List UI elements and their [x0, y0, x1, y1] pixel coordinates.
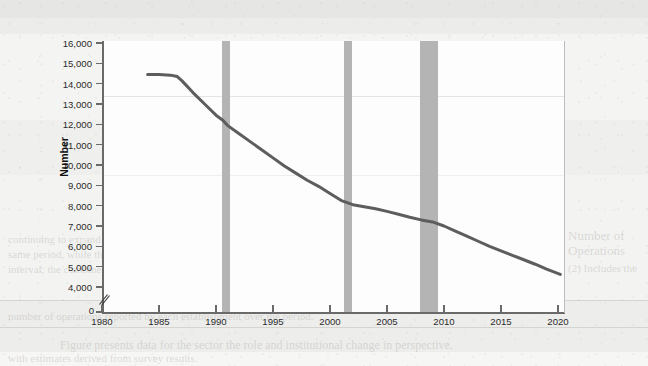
y-axis-tick-label: 13,000 [63, 98, 92, 109]
y-axis-tick-label: 5,000 [68, 261, 92, 272]
y-axis-tick-label: 9,000 [68, 180, 92, 191]
y-axis-tick-label: 4,000 [68, 281, 92, 292]
y-axis-tick-label: 6,000 [68, 241, 92, 252]
x-axis-tick-label: 1980 [91, 316, 112, 327]
x-axis-tick-label: 2015 [490, 316, 511, 327]
y-axis-tick-label: 8,000 [68, 200, 92, 211]
x-axis-tick-label: 1990 [205, 316, 226, 327]
x-axis-tick-label: 2000 [319, 316, 340, 327]
data-series-line [102, 41, 565, 313]
x-axis-tick-label: 1985 [148, 316, 169, 327]
x-axis-tick-label: 1995 [262, 316, 283, 327]
scanned-page: RECESSIONS continuing to expand rapidly … [0, 0, 648, 366]
x-axis-tick-label: 2005 [376, 316, 397, 327]
y-axis-tick-label: 7,000 [68, 220, 92, 231]
x-axis-tick-label: 2010 [433, 316, 454, 327]
y-axis-tick-label: 14,000 [63, 78, 92, 89]
y-axis-tick-label: 15,000 [63, 58, 92, 69]
y-axis-tick-label: 16,000 [63, 37, 92, 48]
x-axis-tick-label: 2020 [547, 316, 568, 327]
y-axis-title: Number [58, 137, 70, 177]
y-axis-tick-zero-label: 0 [80, 305, 94, 316]
y-axis-tick-label: 12,000 [63, 119, 92, 130]
line-chart-figure: 4,0005,0006,0007,0008,0009,00010,00011,0… [0, 0, 648, 366]
